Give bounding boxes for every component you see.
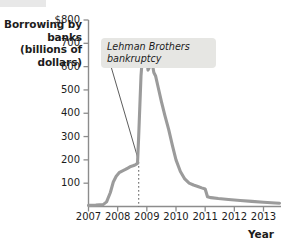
y-tick-label: 700 — [38, 38, 80, 48]
y-tick-label: 300 — [38, 132, 80, 142]
figure-borrowing-by-banks: Borrowing by banks (billions of dollars)… — [0, 0, 284, 247]
annotation-leader-line — [110, 63, 139, 161]
y-tick-label: 600 — [38, 62, 80, 72]
x-tick-label: 2008 — [103, 212, 133, 222]
x-tick-label: 2007 — [74, 212, 104, 222]
y-tick-label: 100 — [38, 178, 80, 188]
annotation-label: Lehman Brothers bankruptcy — [107, 41, 211, 64]
y-tick-label: 500 — [38, 85, 80, 95]
x-tick-label: 2012 — [219, 212, 249, 222]
x-tick-label: 2010 — [161, 212, 191, 222]
x-tick-label: 2011 — [190, 212, 220, 222]
x-tick-label: 2009 — [132, 212, 162, 222]
y-tick-label: 200 — [38, 155, 80, 165]
y-tick-label: $800 — [38, 15, 80, 25]
annotation-lehman-brothers-bankruptcy: Lehman Brothers bankruptcy — [101, 38, 216, 68]
y-tick-marks — [84, 20, 89, 183]
y-tick-label: 400 — [38, 108, 80, 118]
x-tick-label: 2013 — [249, 212, 279, 222]
